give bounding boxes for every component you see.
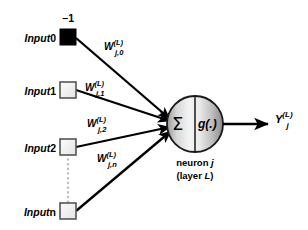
- input-label-2-prefix: Input: [25, 142, 51, 154]
- neuron-caption: neuron j (layer L): [148, 157, 242, 183]
- output-label-sub: j: [287, 121, 289, 130]
- weight-label-n-sub: j,n: [108, 160, 117, 169]
- neuron-caption-text: neuron: [176, 157, 211, 168]
- bias-value-label: −1: [56, 13, 80, 24]
- output-label-sup: (L): [282, 110, 292, 119]
- neuron-caption-index: j: [211, 157, 214, 168]
- input-label-n: Inputn: [0, 207, 56, 218]
- weight-label-2: W(L)j,2: [87, 117, 114, 132]
- weight-label-0: W(L)j,0: [104, 40, 131, 55]
- neuron-caption-line-2: (layer L): [148, 170, 242, 183]
- weight-label-2-sup: (L): [96, 115, 106, 124]
- weight-label-0-sup: (L): [113, 38, 123, 47]
- weight-label-1: W(L)j,1: [85, 81, 112, 96]
- input-label-0-index: 0: [50, 32, 56, 44]
- weight-label-1-sup: (L): [94, 79, 104, 88]
- input-node-2: [60, 139, 76, 155]
- input-label-n-prefix: Input: [24, 206, 50, 218]
- weight-label-1-sub: j,1: [96, 89, 104, 98]
- output-label: Y(L)j: [275, 112, 295, 128]
- input-label-1-prefix: Input: [25, 85, 51, 97]
- weight-label-2-sub: j,2: [98, 125, 106, 134]
- summation-symbol: Σ: [172, 115, 183, 133]
- input-label-0: Input0: [0, 33, 56, 44]
- input-label-1: Input1: [0, 86, 56, 97]
- weight-label-n-sup: (L): [106, 150, 116, 159]
- input-label-2-index: 2: [50, 142, 56, 154]
- input-label-2: Input2: [0, 143, 56, 154]
- input-label-1-index: 1: [50, 85, 56, 97]
- activation-function-symbol: g(.): [198, 118, 217, 130]
- neuron-layer-close: ): [210, 170, 213, 181]
- input-label-0-prefix: Input: [25, 32, 51, 44]
- input-label-n-index: n: [50, 206, 56, 218]
- input-node-1: [60, 82, 76, 98]
- neuron-diagram: −1 Input0 Input1 Input2 Inputn W(L)j,0 W…: [0, 0, 308, 230]
- neuron-layer-open: (layer: [177, 170, 205, 181]
- input-node-n: [60, 203, 76, 219]
- neuron-caption-line-1: neuron j: [148, 157, 242, 170]
- input-node-0: [60, 29, 76, 45]
- weight-label-0-sub: j,0: [115, 48, 123, 57]
- weight-label-n: W(L)j,n: [97, 152, 125, 167]
